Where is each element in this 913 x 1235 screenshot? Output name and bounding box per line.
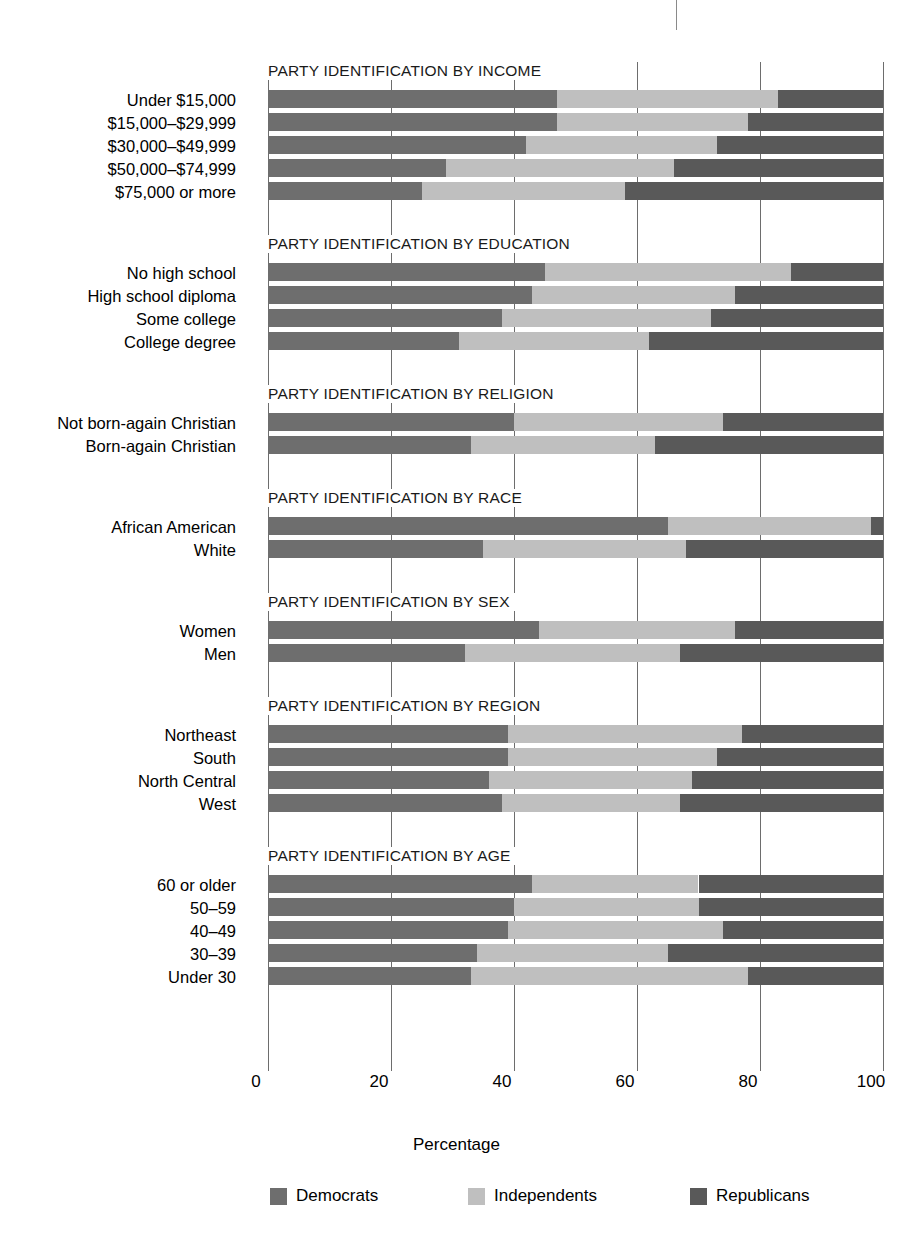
- category-label: 50–59: [190, 899, 236, 917]
- category-label: No high school: [127, 264, 236, 282]
- bar-segment-independents: [446, 159, 674, 177]
- category-label: $50,000–$74,999: [108, 160, 236, 178]
- bar-segment-democrats: [268, 517, 668, 535]
- bar-segment-republicans: [711, 309, 883, 327]
- bar-segment-democrats: [268, 263, 545, 281]
- legend-item-democrats[interactable]: Democrats: [270, 1186, 378, 1206]
- bar-group-5: [268, 725, 883, 817]
- bar-group-6: [268, 875, 883, 990]
- bar-row: [268, 263, 883, 281]
- bar-segment-independents: [508, 921, 723, 939]
- category-label: Born-again Christian: [86, 437, 236, 455]
- bar-segment-democrats: [268, 794, 502, 812]
- bar-segment-independents: [465, 644, 680, 662]
- bar-row: [268, 113, 883, 131]
- legend-swatch-independents: [468, 1188, 485, 1205]
- x-tick-40: [514, 1062, 515, 1071]
- bar-segment-democrats: [268, 921, 508, 939]
- bar-segment-republicans: [791, 263, 883, 281]
- bar-segment-democrats: [268, 413, 514, 431]
- gridline-100: [883, 62, 884, 1062]
- group-title-2: PARTY IDENTIFICATION BY RELIGION: [268, 385, 560, 403]
- bar-segment-republicans: [871, 517, 883, 535]
- group-title-4: PARTY IDENTIFICATION BY SEX: [268, 593, 516, 611]
- bar-segment-democrats: [268, 725, 508, 743]
- legend-label: Independents: [494, 1186, 597, 1206]
- bar-row: [268, 771, 883, 789]
- bar-segment-democrats: [268, 136, 526, 154]
- bar-segment-independents: [557, 113, 748, 131]
- bar-segment-independents: [471, 967, 748, 985]
- category-label: Northeast: [164, 726, 236, 744]
- legend-item-republicans[interactable]: Republicans: [690, 1186, 810, 1206]
- bar-group-1: [268, 263, 883, 355]
- category-label: $75,000 or more: [115, 183, 236, 201]
- bar-row: [268, 332, 883, 350]
- bar-row: [268, 967, 883, 985]
- bar-row: [268, 436, 883, 454]
- bar-segment-independents: [668, 517, 871, 535]
- bar-segment-democrats: [268, 898, 514, 916]
- bar-row: [268, 90, 883, 108]
- bar-segment-democrats: [268, 771, 489, 789]
- bar-segment-independents: [508, 725, 742, 743]
- bar-row: [268, 748, 883, 766]
- category-label: 40–49: [190, 922, 236, 940]
- bar-segment-republicans: [668, 944, 883, 962]
- bar-group-2: [268, 413, 883, 459]
- bar-row: [268, 621, 883, 639]
- group-title-0: PARTY IDENTIFICATION BY INCOME: [268, 62, 547, 80]
- bar-row: [268, 413, 883, 431]
- bar-segment-independents: [532, 286, 735, 304]
- bar-row: [268, 944, 883, 962]
- x-tick-label-40: 40: [493, 1072, 512, 1092]
- bar-segment-republicans: [625, 182, 883, 200]
- bar-segment-independents: [483, 540, 686, 558]
- legend-swatch-republicans: [690, 1188, 707, 1205]
- chart-legend: DemocratsIndependentsRepublicans: [0, 1186, 913, 1212]
- category-label: College degree: [124, 333, 236, 351]
- bar-segment-independents: [502, 794, 680, 812]
- bar-group-4: [268, 621, 883, 667]
- x-tick-label-80: 80: [739, 1072, 758, 1092]
- bar-group-3: [268, 517, 883, 563]
- legend-item-independents[interactable]: Independents: [468, 1186, 597, 1206]
- x-tick-80: [760, 1062, 761, 1071]
- bar-segment-independents: [557, 90, 778, 108]
- x-tick-60: [637, 1062, 638, 1071]
- group-title-1: PARTY IDENTIFICATION BY EDUCATION: [268, 235, 576, 253]
- category-label: Women: [179, 622, 236, 640]
- bar-segment-republicans: [674, 159, 883, 177]
- bar-segment-republicans: [742, 725, 883, 743]
- bar-row: [268, 644, 883, 662]
- bar-segment-republicans: [723, 921, 883, 939]
- bar-segment-independents: [514, 898, 699, 916]
- x-tick-label-60: 60: [616, 1072, 635, 1092]
- category-label: Not born-again Christian: [57, 414, 236, 432]
- bar-segment-independents: [477, 944, 668, 962]
- bar-row: [268, 309, 883, 327]
- bar-segment-republicans: [699, 898, 884, 916]
- x-tick-label-100: 100: [857, 1072, 885, 1092]
- bar-segment-independents: [471, 436, 656, 454]
- bar-segment-republicans: [748, 967, 883, 985]
- bar-segment-republicans: [686, 540, 883, 558]
- bar-row: [268, 875, 883, 893]
- bar-row: [268, 182, 883, 200]
- bar-row: [268, 286, 883, 304]
- bar-segment-independents: [502, 309, 711, 327]
- bar-segment-independents: [526, 136, 717, 154]
- bar-segment-democrats: [268, 286, 532, 304]
- bar-row: [268, 540, 883, 558]
- x-tick-0: [268, 1062, 269, 1071]
- x-axis-title: Percentage: [0, 1135, 913, 1155]
- bar-segment-democrats: [268, 748, 508, 766]
- bar-segment-republicans: [680, 644, 883, 662]
- group-title-6: PARTY IDENTIFICATION BY AGE: [268, 847, 517, 865]
- bar-segment-democrats: [268, 159, 446, 177]
- bar-segment-democrats: [268, 644, 465, 662]
- x-tick-label-0: 0: [251, 1072, 260, 1092]
- bar-segment-republicans: [680, 794, 883, 812]
- bar-segment-republicans: [778, 90, 883, 108]
- bar-row: [268, 794, 883, 812]
